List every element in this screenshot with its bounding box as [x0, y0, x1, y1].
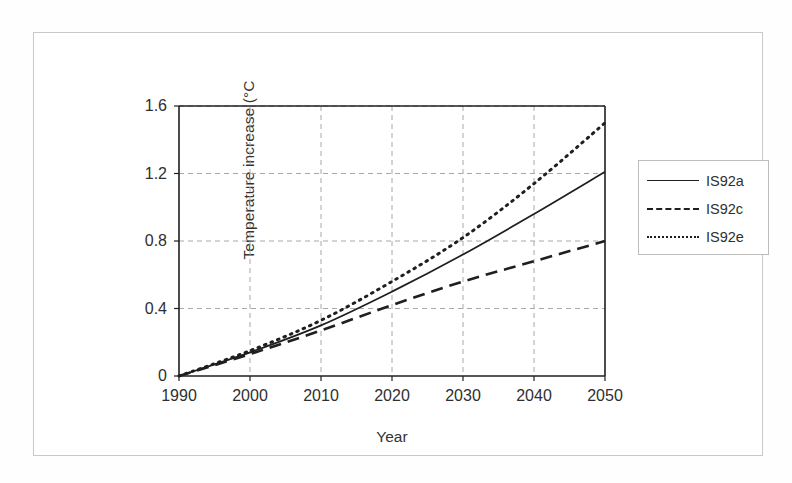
gridlines — [179, 106, 605, 376]
plot-area: Temperature increase (°C 1.6 1.2 0.8 0.4… — [179, 106, 605, 376]
legend-swatch-solid-line-icon — [647, 175, 699, 187]
x-tick-label-1990: 1990 — [144, 388, 214, 404]
legend-swatch-dashed-line-icon — [647, 203, 699, 215]
chart-canvas — [179, 106, 605, 376]
y-tick-label-0: 0 — [107, 368, 167, 384]
legend: IS92a IS92c IS92e — [638, 160, 769, 255]
x-tick-label-2030: 2030 — [428, 388, 498, 404]
x-tick-label-2050: 2050 — [570, 388, 640, 404]
y-tick-label-1_2: 1.2 — [107, 166, 167, 182]
legend-item-is92e[interactable]: IS92e — [647, 227, 765, 247]
x-tick-label-2010: 2010 — [286, 388, 356, 404]
y-tick-label-0_4: 0.4 — [107, 301, 167, 317]
figure-root: Temperature increase (°C 1.6 1.2 0.8 0.4… — [0, 0, 792, 483]
figure-frame: Temperature increase (°C 1.6 1.2 0.8 0.4… — [33, 32, 763, 456]
y-tick-label-1_6: 1.6 — [107, 98, 167, 114]
legend-label-is92a: IS92a — [699, 173, 744, 189]
legend-swatch-dotted-line-icon — [647, 231, 699, 243]
legend-item-is92c[interactable]: IS92c — [647, 199, 765, 219]
x-axis-title: Year — [179, 428, 605, 446]
legend-label-is92e: IS92e — [699, 229, 744, 245]
x-tick-label-2040: 2040 — [499, 388, 569, 404]
x-tick-label-2020: 2020 — [357, 388, 427, 404]
y-tick-label-0_8: 0.8 — [107, 233, 167, 249]
series-line-is92a — [179, 172, 605, 376]
x-tick-label-2000: 2000 — [215, 388, 285, 404]
legend-label-is92c: IS92c — [699, 201, 743, 217]
legend-item-is92a[interactable]: IS92a — [647, 171, 765, 191]
axis-ticks — [174, 106, 605, 381]
